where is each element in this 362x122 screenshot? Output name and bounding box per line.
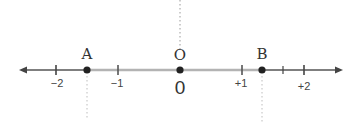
tick-label-plus-2: +2: [298, 80, 311, 92]
tick-label-minus-1: −1: [111, 77, 124, 89]
tick-label-minus-2: −2: [51, 77, 64, 89]
point-label-b: B: [256, 45, 267, 63]
point-o: [176, 66, 183, 73]
point-b: [258, 66, 265, 73]
point-label-o: O: [174, 46, 186, 64]
tick-label-plus-1: +1: [235, 77, 248, 89]
point-a: [83, 66, 90, 73]
number-line-diagram: −2 −1 +1 +2 0 A O B: [0, 0, 362, 122]
arrow-left-icon: [19, 67, 27, 74]
arrow-right-icon: [335, 67, 343, 74]
point-label-a: A: [81, 45, 93, 63]
origin-big-label: 0: [175, 77, 186, 98]
